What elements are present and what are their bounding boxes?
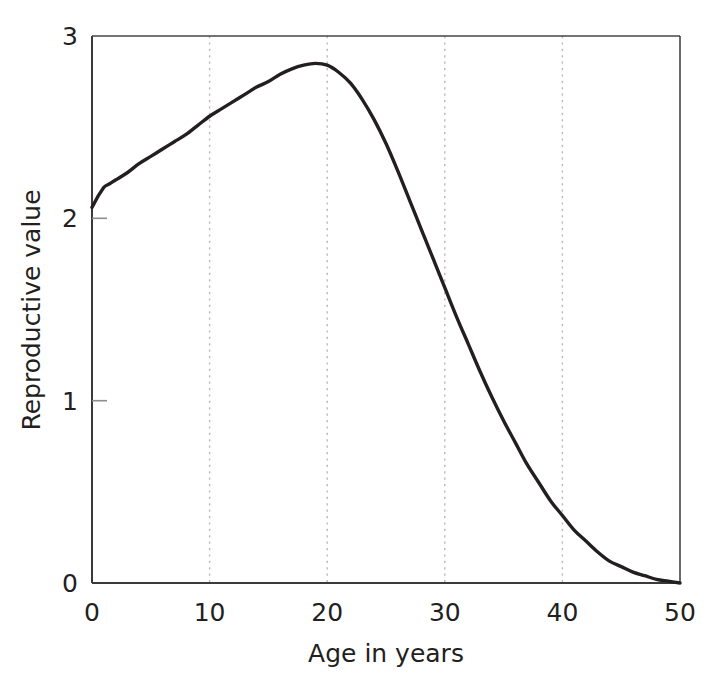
x-tick-label-20: 20 <box>311 598 343 627</box>
y-tick-label-2: 2 <box>62 204 78 233</box>
x-tick-label-50: 50 <box>664 598 696 627</box>
y-tick-label-0: 0 <box>62 569 78 598</box>
x-tick-label-30: 30 <box>429 598 461 627</box>
reproductive-value-line-chart: 3 2 1 0 0 10 20 30 40 50 Age in years Re… <box>0 0 716 673</box>
y-tick-label-1: 1 <box>62 387 78 416</box>
y-tick-label-3: 3 <box>62 22 78 51</box>
x-tick-label-10: 10 <box>194 598 226 627</box>
chart-background <box>0 0 716 673</box>
y-axis-title: Reproductive value <box>17 189 46 430</box>
x-axis-title: Age in years <box>308 639 464 668</box>
x-tick-label-40: 40 <box>546 598 578 627</box>
x-tick-label-0: 0 <box>84 598 100 627</box>
chart-figure: 3 2 1 0 0 10 20 30 40 50 Age in years Re… <box>0 0 716 673</box>
